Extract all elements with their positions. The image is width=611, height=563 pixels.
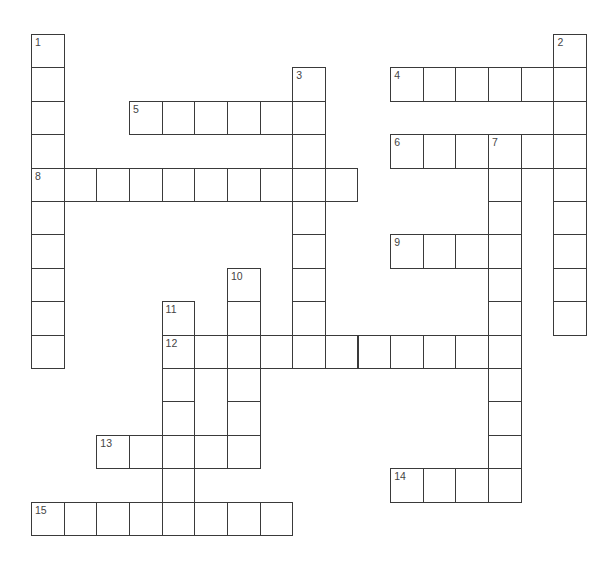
crossword-cell[interactable]: 15 — [31, 502, 65, 536]
crossword-cell[interactable] — [162, 468, 196, 502]
crossword-cell[interactable] — [96, 168, 130, 202]
crossword-cell[interactable] — [129, 502, 163, 536]
crossword-cell[interactable]: 5 — [129, 101, 163, 135]
crossword-cell[interactable] — [553, 301, 587, 335]
crossword-cell[interactable]: 6 — [390, 134, 424, 168]
crossword-cell[interactable] — [553, 134, 587, 168]
crossword-cell[interactable] — [423, 468, 457, 502]
crossword-cell[interactable] — [31, 268, 65, 302]
crossword-cell[interactable] — [488, 201, 522, 235]
crossword-cell[interactable] — [292, 301, 326, 335]
crossword-cell[interactable]: 9 — [390, 234, 424, 268]
crossword-cell[interactable] — [31, 234, 65, 268]
crossword-cell[interactable] — [292, 234, 326, 268]
crossword-cell[interactable] — [423, 134, 457, 168]
crossword-cell[interactable] — [292, 201, 326, 235]
crossword-cell[interactable] — [227, 335, 261, 369]
crossword-cell[interactable] — [488, 168, 522, 202]
crossword-cell[interactable] — [358, 335, 392, 369]
crossword-cell[interactable] — [488, 401, 522, 435]
crossword-cell[interactable] — [553, 268, 587, 302]
crossword-cell[interactable] — [227, 301, 261, 335]
crossword-cell[interactable] — [64, 502, 98, 536]
crossword-grid: 182345679101112131415 — [0, 0, 611, 563]
crossword-cell[interactable]: 2 — [553, 34, 587, 68]
crossword-cell[interactable] — [64, 168, 98, 202]
crossword-cell[interactable] — [162, 101, 196, 135]
crossword-cell[interactable]: 11 — [162, 301, 196, 335]
crossword-cell[interactable] — [31, 67, 65, 101]
crossword-cell[interactable]: 12 — [162, 335, 196, 369]
crossword-cell[interactable] — [325, 168, 359, 202]
crossword-cell[interactable] — [553, 101, 587, 135]
crossword-cell[interactable] — [455, 134, 489, 168]
crossword-cell[interactable] — [31, 101, 65, 135]
crossword-cell[interactable] — [227, 502, 261, 536]
crossword-cell[interactable] — [260, 101, 294, 135]
crossword-cell[interactable] — [488, 234, 522, 268]
clue-number: 12 — [166, 338, 178, 349]
crossword-cell[interactable] — [292, 101, 326, 135]
crossword-cell[interactable] — [227, 168, 261, 202]
crossword-cell[interactable] — [31, 335, 65, 369]
crossword-cell[interactable] — [162, 168, 196, 202]
crossword-cell[interactable] — [325, 335, 359, 369]
crossword-cell[interactable] — [194, 168, 228, 202]
crossword-cell[interactable] — [227, 101, 261, 135]
crossword-cell[interactable] — [194, 502, 228, 536]
crossword-cell[interactable] — [488, 335, 522, 369]
crossword-cell[interactable] — [390, 335, 424, 369]
crossword-cell[interactable]: 4 — [390, 67, 424, 101]
crossword-cell[interactable] — [96, 502, 130, 536]
crossword-cell[interactable] — [31, 301, 65, 335]
crossword-cell[interactable] — [455, 234, 489, 268]
crossword-cell[interactable] — [162, 435, 196, 469]
crossword-cell[interactable]: 13 — [96, 435, 130, 469]
crossword-cell[interactable]: 14 — [390, 468, 424, 502]
crossword-cell[interactable]: 7 — [488, 134, 522, 168]
crossword-cell[interactable] — [488, 268, 522, 302]
crossword-cell[interactable] — [129, 168, 163, 202]
crossword-cell[interactable] — [455, 67, 489, 101]
crossword-cell[interactable] — [488, 301, 522, 335]
crossword-cell[interactable] — [553, 67, 587, 101]
clue-number: 2 — [557, 37, 563, 48]
crossword-cell[interactable] — [488, 435, 522, 469]
crossword-cell[interactable] — [227, 435, 261, 469]
crossword-cell[interactable] — [455, 335, 489, 369]
crossword-cell[interactable] — [488, 468, 522, 502]
crossword-cell[interactable]: 1 — [31, 34, 65, 68]
crossword-cell[interactable] — [194, 101, 228, 135]
crossword-cell[interactable] — [521, 67, 555, 101]
crossword-cell[interactable] — [423, 234, 457, 268]
crossword-cell[interactable] — [553, 201, 587, 235]
crossword-cell[interactable] — [129, 435, 163, 469]
crossword-cell[interactable] — [423, 335, 457, 369]
crossword-cell[interactable] — [194, 335, 228, 369]
crossword-cell[interactable] — [488, 368, 522, 402]
crossword-cell[interactable] — [162, 401, 196, 435]
crossword-cell[interactable] — [194, 435, 228, 469]
crossword-cell[interactable] — [31, 134, 65, 168]
crossword-cell[interactable] — [423, 67, 457, 101]
crossword-cell[interactable] — [292, 335, 326, 369]
crossword-cell[interactable] — [455, 468, 489, 502]
crossword-cell[interactable] — [31, 201, 65, 235]
crossword-cell[interactable] — [553, 168, 587, 202]
crossword-cell[interactable] — [553, 234, 587, 268]
crossword-cell[interactable] — [162, 368, 196, 402]
crossword-cell[interactable] — [260, 335, 294, 369]
crossword-cell[interactable]: 10 — [227, 268, 261, 302]
crossword-cell[interactable] — [162, 502, 196, 536]
crossword-cell[interactable] — [521, 134, 555, 168]
crossword-cell[interactable]: 8 — [31, 168, 65, 202]
crossword-cell[interactable] — [292, 134, 326, 168]
crossword-cell[interactable] — [227, 368, 261, 402]
crossword-cell[interactable] — [292, 168, 326, 202]
crossword-cell[interactable] — [260, 502, 294, 536]
crossword-cell[interactable] — [488, 67, 522, 101]
crossword-cell[interactable]: 3 — [292, 67, 326, 101]
crossword-cell[interactable] — [260, 168, 294, 202]
crossword-cell[interactable] — [292, 268, 326, 302]
crossword-cell[interactable] — [227, 401, 261, 435]
